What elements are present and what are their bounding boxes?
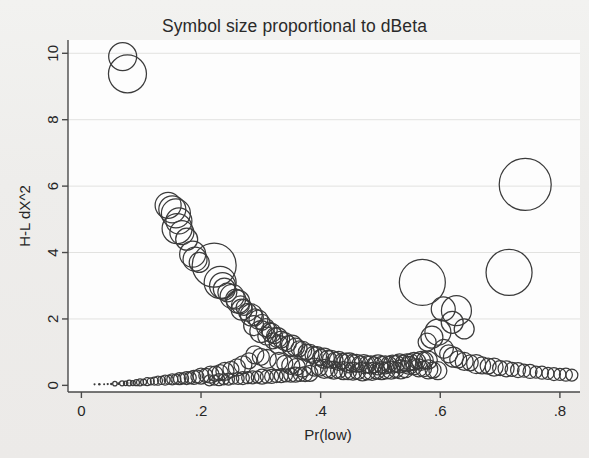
y-axis-ticks: 0246810 [44, 45, 68, 390]
x-tick-label: 0 [77, 402, 85, 419]
y-tick-label: 0 [44, 381, 61, 389]
figure-container: Symbol size proportional to dBeta 024681… [0, 0, 589, 458]
data-point [103, 383, 105, 385]
x-tick-label: .2 [195, 402, 208, 419]
y-tick-label: 4 [44, 248, 61, 256]
x-tick-label: .8 [554, 402, 567, 419]
x-axis-ticks: 0.2.4.6.8 [77, 392, 566, 419]
y-tick-label: 2 [44, 315, 61, 323]
data-point [110, 383, 113, 386]
y-tick-label: 10 [44, 45, 61, 62]
y-tick-label: 8 [44, 116, 61, 124]
scatter-plot: 0246810 0.2.4.6.8 H-L dX^2 Pr(low) [0, 0, 589, 458]
x-axis-title: Pr(low) [304, 426, 352, 443]
data-point [94, 383, 96, 385]
data-point [98, 383, 101, 386]
x-tick-label: .6 [434, 402, 447, 419]
y-tick-label: 6 [44, 182, 61, 190]
y-axis-title: H-L dX^2 [16, 185, 33, 247]
plot-background [68, 40, 580, 392]
data-point [107, 383, 109, 385]
x-tick-label: .4 [314, 402, 327, 419]
